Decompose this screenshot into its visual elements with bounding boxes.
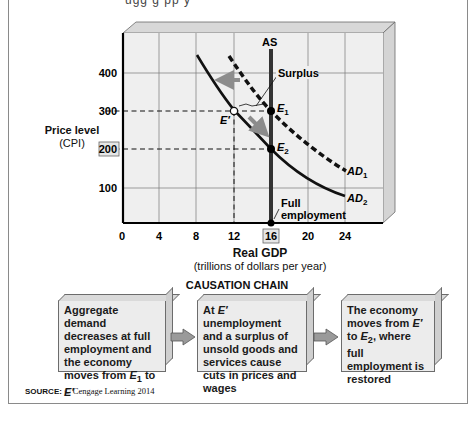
- causation-box-1: Aggregate demand decreases at full emplo…: [58, 300, 166, 372]
- chain-arrow-2-icon: [313, 328, 339, 346]
- eprime-label: E′: [220, 114, 231, 126]
- svg-text:0: 0: [119, 230, 125, 242]
- svg-text:100: 100: [99, 182, 117, 194]
- svg-text:8: 8: [193, 230, 199, 242]
- point-full-employment: [268, 220, 275, 227]
- full-employment-label-1: Full: [281, 197, 301, 209]
- causation-box-3: The economy moves from E′ to E2, where f…: [341, 300, 435, 372]
- full-employment-label-2: employment: [281, 209, 346, 221]
- source-credit: SOURCE: © Cengage Learning 2014: [25, 386, 154, 396]
- svg-text:20: 20: [302, 230, 314, 242]
- svg-text:24: 24: [339, 230, 352, 242]
- y-axis-title: Price level (CPI): [42, 124, 102, 150]
- svg-text:300: 300: [99, 105, 117, 117]
- causation-chain-title: CAUSATION CHAIN: [0, 279, 474, 291]
- point-e1: [267, 107, 275, 115]
- chain-arrow-1-icon: [170, 328, 196, 346]
- point-eprime: [230, 107, 237, 114]
- plot-right-face: [383, 22, 395, 223]
- plot-top-face: [123, 22, 395, 33]
- point-e2: [267, 145, 275, 153]
- as-label: AS: [262, 36, 277, 48]
- svg-text:16: 16: [265, 230, 277, 242]
- svg-text:12: 12: [228, 230, 240, 242]
- svg-text:4: 4: [156, 230, 163, 242]
- svg-text:400: 400: [99, 67, 117, 79]
- surplus-label: Surplus: [278, 67, 319, 79]
- x-tick-labels: 0 4 8 12 16 20 24: [119, 229, 352, 243]
- causation-box-2: At E′ unemployment and a surplus of unso…: [197, 300, 307, 372]
- x-axis-title: Real GDP (trillions of dollars per year): [150, 247, 370, 273]
